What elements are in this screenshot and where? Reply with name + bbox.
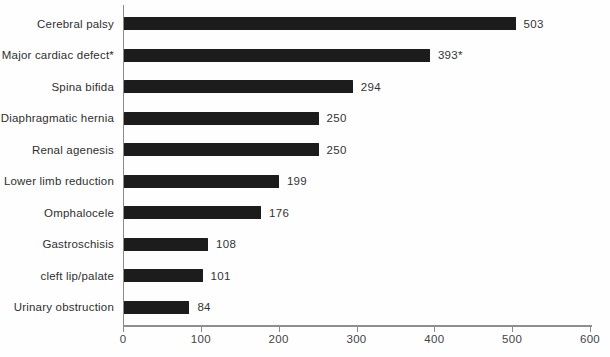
bar: [124, 301, 189, 314]
x-tick-mark: [357, 327, 358, 332]
bar-row: 84: [124, 292, 591, 324]
bar: [124, 80, 353, 93]
x-axis-line: [123, 325, 592, 327]
bar: [124, 238, 208, 251]
bar: [124, 269, 203, 282]
bar: [124, 112, 319, 125]
category-label: cleft lip/palate: [0, 260, 114, 292]
x-tick-mark: [434, 327, 435, 332]
bar-row: 250: [124, 134, 591, 166]
x-tick-mark: [279, 327, 280, 332]
plot-area: 503393*29425025019917610810184: [123, 5, 590, 326]
x-tick-label: 600: [580, 333, 600, 345]
bar-chart-figure: 503393*29425025019917610810184 Cerebral …: [0, 0, 610, 357]
x-tick-label: 500: [502, 333, 522, 345]
value-label: 101: [211, 270, 231, 282]
x-tick-label: 200: [269, 333, 289, 345]
x-tick-mark: [590, 327, 591, 332]
bar-row: 176: [124, 197, 591, 229]
value-label: 199: [287, 175, 307, 187]
bar: [124, 143, 319, 156]
value-label: 503: [524, 18, 544, 30]
bar-row: 503: [124, 8, 591, 40]
value-label: 250: [327, 144, 347, 156]
x-tick-mark: [123, 327, 124, 332]
bar: [124, 17, 516, 30]
category-label: Spina bifida: [0, 71, 114, 103]
x-tick-label: 300: [346, 333, 366, 345]
bar-row: 108: [124, 229, 591, 261]
value-label: 108: [216, 238, 236, 250]
category-label: Omphalocele: [0, 197, 114, 229]
value-label: 393*: [438, 49, 463, 61]
category-label: Urinary obstruction: [0, 292, 114, 324]
bar-row: 393*: [124, 40, 591, 72]
value-label: 250: [327, 112, 347, 124]
bar-row: 101: [124, 260, 591, 292]
category-label: Lower limb reduction: [0, 166, 114, 198]
bar-row: 199: [124, 166, 591, 198]
x-tick-mark: [201, 327, 202, 332]
category-label: Major cardiac defect*: [0, 40, 114, 72]
value-label: 176: [269, 207, 289, 219]
x-tick-label: 100: [191, 333, 211, 345]
x-tick-label: 0: [120, 333, 127, 345]
bar: [124, 49, 430, 62]
x-tick-mark: [512, 327, 513, 332]
category-label: Cerebral palsy: [0, 8, 114, 40]
bar-row: 250: [124, 103, 591, 135]
category-label: Gastroschisis: [0, 229, 114, 261]
bar: [124, 175, 279, 188]
value-label: 294: [361, 81, 381, 93]
bar: [124, 206, 261, 219]
x-tick-label: 400: [424, 333, 444, 345]
category-label: Renal agenesis: [0, 134, 114, 166]
bar-row: 294: [124, 71, 591, 103]
value-label: 84: [197, 301, 210, 313]
category-label: Diaphragmatic hernia: [0, 103, 114, 135]
